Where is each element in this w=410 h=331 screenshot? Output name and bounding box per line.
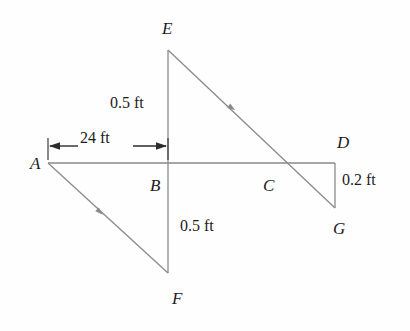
joint-label-G: G <box>333 220 345 237</box>
dimension-label-right-offset: 0.2 ft <box>342 172 376 188</box>
joint-label-D: D <box>337 134 349 151</box>
figure-svg <box>0 0 410 331</box>
marker-af-icon <box>95 207 104 216</box>
joint-label-A: A <box>30 155 40 172</box>
dimension-label-lower-height: 0.5 ft <box>180 218 214 234</box>
dimension-label-upper-height: 0.5 ft <box>110 95 144 111</box>
joint-label-C: C <box>263 177 274 194</box>
joint-label-B: B <box>150 177 160 194</box>
joint-label-E: E <box>162 20 172 37</box>
dimension-arrow-left-icon <box>49 142 60 149</box>
dimension-label-span: 24 ft <box>80 130 110 146</box>
diagram-canvas: A B C D E F G 0.5 ft 24 ft 0.5 ft 0.2 ft <box>0 0 410 331</box>
member-EG <box>168 50 335 208</box>
dimension-arrow-right-icon <box>156 142 167 149</box>
joint-label-F: F <box>172 290 182 307</box>
